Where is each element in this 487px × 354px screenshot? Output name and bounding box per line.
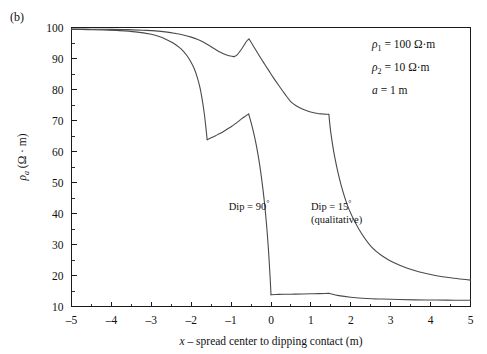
x-tick-label: 0 bbox=[268, 314, 274, 326]
y-tick-label: 30 bbox=[52, 239, 64, 251]
x-tick-label: –1 bbox=[224, 314, 237, 326]
x-tick-label: –3 bbox=[145, 314, 158, 326]
x-tick-label: 3 bbox=[388, 314, 394, 326]
series-label-dip15-qualifier: (qualitative) bbox=[311, 214, 363, 226]
y-tick-label: 40 bbox=[52, 208, 64, 220]
x-tick-label: –4 bbox=[105, 314, 118, 326]
x-axis-label: x – spread center to dipping contact (m) bbox=[179, 335, 363, 348]
x-tick-label: –2 bbox=[184, 314, 197, 326]
curve-dip15-seg1 bbox=[234, 39, 249, 57]
series-label-dip90: Dip = 90° bbox=[229, 199, 270, 212]
x-tick-label: –5 bbox=[65, 314, 78, 326]
y-tick-label: 50 bbox=[52, 177, 64, 189]
curve-dip90-seg4 bbox=[329, 293, 471, 300]
y-tick-label: 80 bbox=[52, 84, 64, 96]
x-tick-label: 1 bbox=[308, 314, 314, 326]
curve-dip15-seg3 bbox=[329, 114, 471, 280]
y-tick-label: 10 bbox=[52, 301, 64, 313]
curve-dip90-seg1 bbox=[207, 114, 249, 140]
y-tick-label: 70 bbox=[52, 115, 64, 127]
curve-dip90-seg0 bbox=[72, 29, 208, 139]
curve-dip90-seg3 bbox=[271, 293, 329, 294]
y-tick-label: 90 bbox=[52, 53, 64, 65]
resistivity-plot: 102030405060708090100–5–4–3–2–1012345x –… bbox=[0, 0, 487, 354]
y-tick-label: 60 bbox=[52, 146, 64, 158]
parameter-rho1: ρ1 = 100 Ω·m bbox=[371, 38, 435, 53]
parameter-rho2: ρ2 = 10 Ω·m bbox=[371, 61, 430, 76]
y-axis-label: ρa (Ω · m) bbox=[16, 133, 31, 181]
y-tick-label: 20 bbox=[52, 270, 64, 282]
x-tick-label: 4 bbox=[428, 314, 434, 326]
curve-dip15-seg2 bbox=[249, 39, 329, 114]
parameter-a: a = 1 m bbox=[372, 84, 408, 96]
x-tick-label: 2 bbox=[348, 314, 354, 326]
chart-annotations: Dip = 90°Dip = 15°(qualitative)ρ1 = 100 … bbox=[229, 38, 436, 226]
series-label-dip15: Dip = 15° bbox=[311, 199, 352, 212]
chart-figure: 102030405060708090100–5–4–3–2–1012345x –… bbox=[0, 0, 487, 354]
x-tick-label: 5 bbox=[468, 314, 474, 326]
curve-dip15-seg0 bbox=[72, 29, 235, 57]
y-tick-label: 100 bbox=[46, 22, 64, 34]
